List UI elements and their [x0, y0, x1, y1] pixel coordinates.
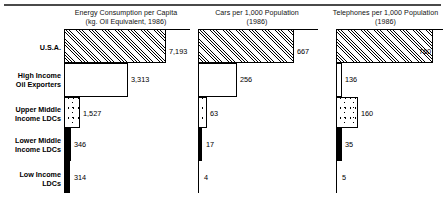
bar-value-upper-middle-income-ldcs: 160: [361, 110, 373, 118]
bar-value-usa: 760: [419, 48, 431, 56]
panel-telephones-per-1000: 760 136 160 35 5: [0, 0, 445, 201]
bar-value-high-income-oil-exporters: 136: [345, 76, 357, 84]
bar-high-income-oil-exporters: [336, 63, 342, 97]
bar-upper-middle-income-ldcs: [336, 97, 358, 128]
chart-figure: Energy Consumption per Capita (kg. Oil E…: [0, 0, 445, 201]
bar-low-income-ldcs: [336, 161, 337, 193]
bar-usa: [336, 29, 433, 63]
bar-value-lower-middle-income-ldcs: 35: [345, 141, 353, 149]
bar-lower-middle-income-ldcs: [336, 128, 342, 161]
bar-value-low-income-ldcs: 5: [342, 174, 346, 182]
